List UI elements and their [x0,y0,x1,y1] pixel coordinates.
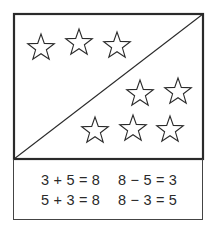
equation-sub-2: 8 − 3 = 5 [118,192,177,208]
equation-add-1: 3 + 5 = 8 [41,172,100,188]
equations-box [13,159,203,220]
equation-add-2: 5 + 3 = 8 [41,192,100,208]
equation-sub-1: 8 − 5 = 3 [118,172,177,188]
fact-family-diagram: 3 + 5 = 8 5 + 3 = 8 8 − 5 = 3 8 − 3 = 5 [0,0,215,232]
